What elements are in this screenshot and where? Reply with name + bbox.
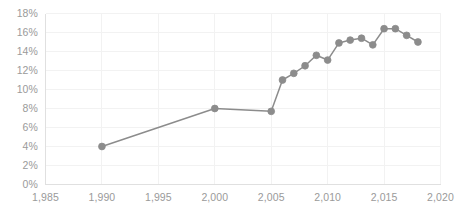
y-axis-tick-label: 8%: [4, 102, 38, 114]
data-point-marker: [324, 57, 331, 64]
data-point-marker: [392, 25, 399, 32]
data-point-marker: [369, 41, 376, 48]
line-chart: 18%16%14%12%10%8%6%4%2%0% 1,9851,9901,99…: [0, 0, 455, 216]
data-point-marker: [347, 37, 354, 44]
y-axis-tick-label: 12%: [4, 64, 38, 76]
data-point-marker: [381, 25, 388, 32]
data-point-marker: [99, 143, 106, 150]
x-axis-tick-label: 2,015: [360, 191, 408, 203]
x-axis-tick-label: 1,990: [78, 191, 126, 203]
x-axis-tick-label: 2,000: [191, 191, 239, 203]
plot-border: [46, 14, 441, 185]
data-point-marker: [403, 32, 410, 39]
data-point-marker: [290, 70, 297, 77]
x-axis-tick-label: 2,010: [304, 191, 352, 203]
data-point-marker: [358, 35, 365, 42]
x-axis-tick-label: 2,020: [417, 191, 455, 203]
data-point-marker: [336, 40, 343, 47]
y-axis-tick-label: 6%: [4, 121, 38, 133]
x-axis-tick-label: 1,995: [134, 191, 182, 203]
y-axis-tick-label: 0%: [4, 178, 38, 190]
data-point-marker: [302, 62, 309, 69]
x-axis-tick-label: 1,985: [22, 191, 70, 203]
y-axis-tick-label: 4%: [4, 140, 38, 152]
data-point-marker: [211, 105, 218, 112]
y-axis-tick-label: 18%: [4, 7, 38, 19]
data-point-marker: [279, 77, 286, 84]
y-axis-tick-label: 14%: [4, 45, 38, 57]
data-point-marker: [415, 39, 422, 46]
x-axis-tick-label: 2,005: [247, 191, 295, 203]
gridlines-vertical: [102, 14, 441, 185]
data-point-marker: [268, 108, 275, 115]
y-axis-tick-label: 2%: [4, 159, 38, 171]
y-axis-tick-label: 10%: [4, 83, 38, 95]
y-axis-tick-label: 16%: [4, 26, 38, 38]
data-point-marker: [313, 52, 320, 59]
chart-plot-area: [0, 0, 455, 216]
gridlines-horizontal: [46, 14, 441, 166]
